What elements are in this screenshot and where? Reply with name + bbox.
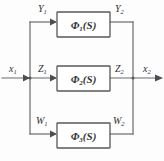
- signal-label-output: x2: [142, 63, 151, 75]
- arrow-input-trunk: [23, 75, 30, 82]
- signal-label-mid-out: Z2: [115, 63, 125, 75]
- signal-label-bot-in: W1: [36, 115, 48, 127]
- block-diagram-figure: Φ1(S) Φ2(S) Φ3(S) Y1 Y2 x1: [0, 0, 164, 161]
- block-phi2[interactable]: Φ2(S): [57, 66, 110, 91]
- arrow-into-phi2: [50, 75, 57, 82]
- arrow-into-phi3: [50, 131, 57, 138]
- signal-label-bot-out: W2: [113, 115, 125, 127]
- output-junction-node: [132, 77, 135, 80]
- signal-label-top-in: Y1: [38, 3, 47, 15]
- signal-label-input: x1: [8, 63, 17, 75]
- arrow-output: [155, 74, 163, 81]
- block-phi3[interactable]: Φ3(S): [57, 123, 110, 148]
- diagram-canvas: Φ1(S) Φ2(S) Φ3(S) Y1 Y2 x1: [0, 0, 164, 161]
- signal-label-mid-in: Z1: [38, 63, 47, 75]
- arrow-into-phi1: [50, 19, 57, 26]
- block-phi1[interactable]: Φ1(S): [57, 12, 110, 37]
- signal-label-top-out: Y2: [115, 3, 125, 15]
